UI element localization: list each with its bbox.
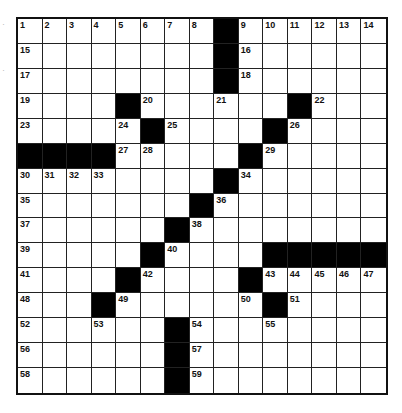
crossword-cell[interactable]: 5 <box>116 19 141 44</box>
crossword-cell[interactable] <box>116 169 141 194</box>
crossword-cell[interactable] <box>43 69 68 94</box>
crossword-cell[interactable]: 53 <box>92 318 117 343</box>
crossword-cell[interactable]: 11 <box>288 19 313 44</box>
crossword-cell[interactable] <box>67 44 92 69</box>
crossword-cell[interactable] <box>288 218 313 243</box>
crossword-cell[interactable] <box>288 343 313 368</box>
crossword-cell[interactable] <box>312 368 337 393</box>
crossword-cell[interactable] <box>92 368 117 393</box>
crossword-cell[interactable] <box>67 268 92 293</box>
crossword-cell[interactable] <box>165 94 190 119</box>
crossword-cell[interactable]: 2 <box>43 19 68 44</box>
crossword-cell[interactable]: 4 <box>92 19 117 44</box>
crossword-cell[interactable]: 41 <box>18 268 43 293</box>
crossword-cell[interactable] <box>141 293 166 318</box>
crossword-cell[interactable]: 17 <box>18 69 43 94</box>
crossword-cell[interactable] <box>67 293 92 318</box>
crossword-cell[interactable] <box>43 218 68 243</box>
crossword-cell[interactable] <box>190 94 215 119</box>
crossword-cell[interactable] <box>361 69 386 94</box>
crossword-cell[interactable] <box>67 194 92 219</box>
crossword-cell[interactable] <box>92 243 117 268</box>
crossword-cell[interactable] <box>263 218 288 243</box>
crossword-cell[interactable]: 39 <box>18 243 43 268</box>
crossword-cell[interactable] <box>165 169 190 194</box>
crossword-cell[interactable] <box>190 268 215 293</box>
crossword-cell[interactable] <box>43 293 68 318</box>
crossword-cell[interactable]: 34 <box>239 169 264 194</box>
crossword-cell[interactable]: 47 <box>361 268 386 293</box>
crossword-cell[interactable] <box>165 194 190 219</box>
crossword-cell[interactable] <box>67 119 92 144</box>
crossword-cell[interactable]: 48 <box>18 293 43 318</box>
crossword-cell[interactable]: 8 <box>190 19 215 44</box>
crossword-cell[interactable] <box>312 194 337 219</box>
crossword-cell[interactable] <box>214 119 239 144</box>
crossword-cell[interactable]: 18 <box>239 69 264 94</box>
crossword-cell[interactable] <box>288 144 313 169</box>
crossword-cell[interactable]: 30 <box>18 169 43 194</box>
crossword-cell[interactable] <box>214 268 239 293</box>
crossword-cell[interactable] <box>337 293 362 318</box>
crossword-cell[interactable] <box>141 194 166 219</box>
crossword-cell[interactable] <box>337 194 362 219</box>
crossword-cell[interactable]: 46 <box>337 268 362 293</box>
crossword-cell[interactable] <box>116 243 141 268</box>
crossword-cell[interactable] <box>43 44 68 69</box>
crossword-cell[interactable] <box>214 318 239 343</box>
crossword-cell[interactable] <box>312 318 337 343</box>
crossword-cell[interactable] <box>214 243 239 268</box>
crossword-cell[interactable] <box>337 368 362 393</box>
crossword-cell[interactable]: 7 <box>165 19 190 44</box>
crossword-cell[interactable] <box>67 218 92 243</box>
crossword-cell[interactable] <box>263 368 288 393</box>
crossword-cell[interactable]: 33 <box>92 169 117 194</box>
crossword-cell[interactable] <box>361 44 386 69</box>
crossword-cell[interactable]: 19 <box>18 94 43 119</box>
crossword-cell[interactable] <box>337 218 362 243</box>
crossword-cell[interactable] <box>312 119 337 144</box>
crossword-cell[interactable]: 22 <box>312 94 337 119</box>
crossword-cell[interactable]: 14 <box>361 19 386 44</box>
crossword-cell[interactable]: 40 <box>165 243 190 268</box>
crossword-cell[interactable] <box>288 44 313 69</box>
crossword-cell[interactable] <box>67 243 92 268</box>
crossword-cell[interactable] <box>165 69 190 94</box>
crossword-cell[interactable] <box>263 94 288 119</box>
crossword-cell[interactable] <box>239 318 264 343</box>
crossword-cell[interactable] <box>43 368 68 393</box>
crossword-cell[interactable] <box>361 318 386 343</box>
crossword-cell[interactable]: 6 <box>141 19 166 44</box>
crossword-cell[interactable]: 28 <box>141 144 166 169</box>
crossword-cell[interactable] <box>116 368 141 393</box>
crossword-cell[interactable]: 44 <box>288 268 313 293</box>
crossword-cell[interactable] <box>239 94 264 119</box>
crossword-cell[interactable]: 50 <box>239 293 264 318</box>
crossword-cell[interactable] <box>92 69 117 94</box>
crossword-cell[interactable] <box>43 318 68 343</box>
crossword-cell[interactable]: 21 <box>214 94 239 119</box>
crossword-cell[interactable] <box>141 44 166 69</box>
crossword-cell[interactable] <box>312 218 337 243</box>
crossword-cell[interactable]: 43 <box>263 268 288 293</box>
crossword-cell[interactable]: 55 <box>263 318 288 343</box>
crossword-cell[interactable] <box>337 169 362 194</box>
crossword-cell[interactable] <box>263 69 288 94</box>
crossword-cell[interactable]: 56 <box>18 343 43 368</box>
crossword-cell[interactable] <box>239 343 264 368</box>
crossword-cell[interactable]: 35 <box>18 194 43 219</box>
crossword-cell[interactable] <box>337 318 362 343</box>
crossword-cell[interactable] <box>165 268 190 293</box>
crossword-cell[interactable] <box>67 69 92 94</box>
crossword-cell[interactable]: 25 <box>165 119 190 144</box>
crossword-cell[interactable] <box>263 343 288 368</box>
crossword-cell[interactable] <box>116 318 141 343</box>
crossword-cell[interactable]: 32 <box>67 169 92 194</box>
crossword-cell[interactable] <box>214 368 239 393</box>
crossword-cell[interactable] <box>361 94 386 119</box>
crossword-cell[interactable] <box>116 218 141 243</box>
crossword-cell[interactable] <box>92 218 117 243</box>
crossword-cell[interactable] <box>141 343 166 368</box>
crossword-cell[interactable] <box>361 194 386 219</box>
crossword-cell[interactable]: 45 <box>312 268 337 293</box>
